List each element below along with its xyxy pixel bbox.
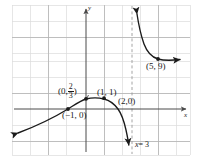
fraction-two-thirds: 2 3 — [68, 83, 74, 100]
curve-left-branch — [18, 98, 129, 145]
point-label-0-two-thirds: (0, 2 3 ) — [58, 83, 77, 100]
point-label-5-9: (5, 9) — [146, 62, 166, 71]
point-label-0-two-thirds-suffix: ) — [74, 87, 77, 96]
point-label-2-0: (2,0) — [118, 97, 135, 106]
grid-major — [12, 5, 190, 155]
y-axis-label: y — [88, 5, 91, 12]
point-label-neg1-0: (−1, 0) — [62, 111, 87, 120]
point-label-1-1: (1, 1) — [97, 88, 117, 97]
point-label-0-two-thirds-prefix: (0, — [58, 87, 68, 96]
asymptote-label: x= 3 — [135, 141, 149, 149]
grid-minor — [12, 5, 190, 155]
graph-canvas — [0, 0, 200, 159]
fraction-numerator: 2 — [68, 83, 74, 91]
x-axis-label: x — [184, 112, 187, 119]
figure-container: y x (0, 2 3 ) (1, 1) (2,0) (−1, 0) (5, 9… — [0, 0, 200, 159]
asymptote-label-equation: = 3 — [139, 140, 150, 149]
fraction-denominator: 3 — [68, 91, 74, 100]
